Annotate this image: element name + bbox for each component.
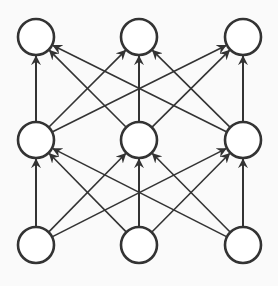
output-node: [225, 19, 261, 55]
output-node: [18, 19, 54, 55]
input-node: [18, 227, 54, 263]
hidden-node: [18, 122, 54, 158]
hidden-node: [225, 122, 261, 158]
output-node: [121, 19, 157, 55]
input-node: [225, 227, 261, 263]
hidden-node: [121, 122, 157, 158]
neural-network-diagram: [0, 0, 278, 286]
input-node: [121, 227, 157, 263]
